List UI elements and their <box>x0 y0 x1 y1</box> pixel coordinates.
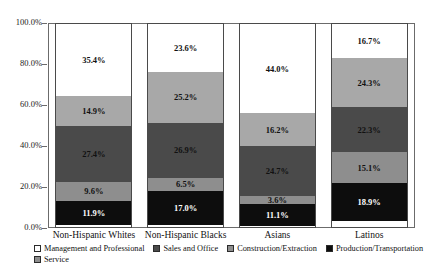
bar-segment-value-label: 14.9% <box>82 106 105 116</box>
y-axis-tick-label: 60.0% <box>20 100 42 109</box>
bar-segment[interactable]: 18.9% <box>332 183 407 221</box>
legend-item[interactable]: Service <box>34 254 69 265</box>
y-axis-tick-label: 40.0% <box>20 141 42 150</box>
bar-group: 44.0%16.2%24.7%3.6%11.1% <box>239 23 316 228</box>
legend-swatch-icon <box>153 245 160 252</box>
bar-segment-value-label: 6.5% <box>176 179 195 189</box>
legend-swatch-icon <box>326 245 333 252</box>
x-axis-category-label: Asians <box>232 230 324 241</box>
bar-segment[interactable]: 6.5% <box>148 178 223 191</box>
legend-item-label: Construction/Extraction <box>237 243 317 254</box>
y-axis-tick-label: 100.0% <box>16 18 42 27</box>
bar-segment[interactable]: 24.3% <box>332 58 407 107</box>
legend-item-label: Management and Professional <box>44 243 144 254</box>
bar-segment-value-label: 3.6% <box>268 196 287 203</box>
x-axis-category-label: Latinos <box>323 230 415 241</box>
bar-segment[interactable]: 11.1% <box>240 204 315 227</box>
x-axis-category-label: Non-Hispanic Whites <box>48 230 140 241</box>
y-axis-tick-label: 20.0% <box>20 182 42 191</box>
legend-swatch-icon <box>34 245 41 252</box>
legend-row-primary: Management and ProfessionalSales and Off… <box>34 243 434 254</box>
bar-segment[interactable]: 15.1% <box>332 152 407 183</box>
bar-segment-value-label: 24.7% <box>266 166 289 176</box>
bar-segment[interactable]: 16.7% <box>332 24 407 58</box>
y-axis-tick-mark <box>42 228 47 229</box>
bar-segment[interactable]: 44.0% <box>240 24 315 113</box>
bar-segment-value-label: 18.9% <box>357 197 380 207</box>
y-axis-tick-label: 0.0% <box>24 223 42 232</box>
legend-item-label: Production/Transportation <box>336 243 423 254</box>
stacked-bar[interactable]: 35.4%14.9%27.4%9.6%11.9% <box>55 23 132 228</box>
bar-segment[interactable]: 27.4% <box>56 126 131 182</box>
bar-segment[interactable]: 35.4% <box>56 24 131 96</box>
bar-segment[interactable]: 22.3% <box>332 107 407 152</box>
bar-group: 16.7%24.3%22.3%15.1%18.9% <box>331 23 408 228</box>
y-axis-tick-mark <box>42 23 47 24</box>
y-axis: 0.0%20.0%40.0%60.0%80.0%100.0% <box>0 0 46 266</box>
stacked-bar-chart: 0.0%20.0%40.0%60.0%80.0%100.0% Non-Hispa… <box>0 0 447 266</box>
legend-item[interactable]: Management and Professional <box>34 243 144 254</box>
bar-segment[interactable]: 25.2% <box>148 72 223 123</box>
bar-segment-value-label: 16.7% <box>357 36 380 46</box>
y-axis-tick-mark <box>42 146 47 147</box>
bar-segment-value-label: 11.9% <box>82 208 105 218</box>
legend-item[interactable]: Production/Transportation <box>326 243 423 254</box>
legend-item[interactable]: Sales and Office <box>153 243 218 254</box>
x-axis-category-label: Non-Hispanic Blacks <box>140 230 232 241</box>
legend-row-secondary: Service <box>34 254 434 265</box>
y-axis-tick-label: 80.0% <box>20 59 42 68</box>
bar-segment-value-label: 27.4% <box>82 149 105 159</box>
bar-segment-value-label: 15.1% <box>357 163 380 173</box>
bar-segment-value-label: 44.0% <box>266 64 289 74</box>
bar-group: 35.4%14.9%27.4%9.6%11.9% <box>55 23 132 228</box>
bar-segment[interactable]: 24.7% <box>240 146 315 196</box>
bar-segment[interactable]: 14.9% <box>56 96 131 126</box>
y-axis-tick-mark <box>42 105 47 106</box>
stacked-bar[interactable]: 44.0%16.2%24.7%3.6%11.1% <box>239 23 316 228</box>
bar-segment[interactable]: 26.9% <box>148 123 223 178</box>
bar-segment[interactable]: 11.9% <box>56 201 131 225</box>
y-axis-tick-mark <box>42 187 47 188</box>
y-axis-tick-mark <box>42 64 47 65</box>
legend-item-label: Service <box>44 254 69 265</box>
bar-segment[interactable]: 23.6% <box>148 24 223 72</box>
bar-segment-value-label: 23.6% <box>174 43 197 53</box>
chart-legend: Management and ProfessionalSales and Off… <box>34 243 434 265</box>
bar-segment-value-label: 24.3% <box>357 78 380 88</box>
bar-segment-value-label: 26.9% <box>174 145 197 155</box>
stacked-bar[interactable]: 23.6%25.2%26.9%6.5%17.0% <box>147 23 224 228</box>
bar-segment-value-label: 16.2% <box>266 125 289 135</box>
bar-segment[interactable]: 3.6% <box>240 196 315 203</box>
bar-segment[interactable]: 16.2% <box>240 113 315 146</box>
bar-segment-value-label: 17.0% <box>174 203 197 213</box>
bar-segment-value-label: 22.3% <box>357 125 380 135</box>
legend-item-label: Sales and Office <box>163 243 218 254</box>
bar-segment[interactable]: 17.0% <box>148 191 223 226</box>
bar-segment-value-label: 35.4% <box>82 55 105 65</box>
bar-group: 23.6%25.2%26.9%6.5%17.0% <box>147 23 224 228</box>
legend-swatch-icon <box>227 245 234 252</box>
bar-segment-value-label: 9.6% <box>84 186 103 196</box>
legend-item[interactable]: Construction/Extraction <box>227 243 317 254</box>
bar-segment-value-label: 25.2% <box>174 92 197 102</box>
bar-segment-value-label: 11.1% <box>266 210 289 220</box>
legend-swatch-icon <box>34 256 41 263</box>
bar-segment[interactable]: 9.6% <box>56 182 131 201</box>
stacked-bar[interactable]: 16.7%24.3%22.3%15.1%18.9% <box>331 23 408 228</box>
